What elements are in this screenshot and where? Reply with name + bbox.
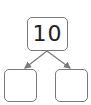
part-box-left[interactable] — [4, 69, 37, 102]
whole-box: 10 — [27, 17, 68, 51]
part-box-right[interactable] — [55, 69, 88, 102]
arrow-right — [47, 51, 70, 68]
whole-value: 10 — [33, 23, 63, 45]
arrow-left — [25, 51, 47, 68]
